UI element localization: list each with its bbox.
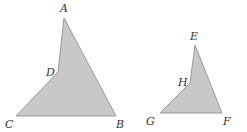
vertex-label-b: B xyxy=(115,118,124,131)
vertex-label-a: A xyxy=(59,2,68,15)
quadrilateral-abcd xyxy=(16,18,116,116)
diagram-canvas: A B C D E F G H xyxy=(0,0,247,132)
quadrilateral-efgh xyxy=(160,45,222,113)
vertex-label-d: D xyxy=(45,66,55,79)
vertex-label-e: E xyxy=(189,30,198,43)
vertex-label-c: C xyxy=(5,118,14,131)
vertex-label-h: H xyxy=(177,76,188,89)
vertex-label-f: F xyxy=(222,115,231,128)
vertex-label-g: G xyxy=(146,115,155,128)
